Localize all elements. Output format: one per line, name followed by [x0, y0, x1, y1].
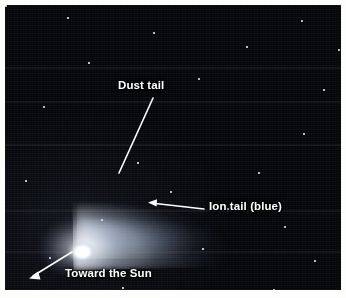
comet-figure: Dust tail Ion tail (blue) Toward the Sun	[0, 0, 346, 298]
comet-photograph: Dust tail Ion tail (blue) Toward the Sun	[5, 5, 341, 290]
comet-nucleus-core	[75, 246, 90, 258]
